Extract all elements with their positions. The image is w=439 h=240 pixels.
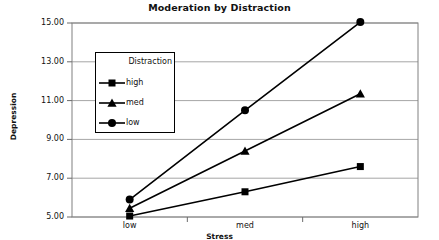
data-point-square xyxy=(126,213,133,220)
data-point-circle xyxy=(356,18,364,26)
legend-entry-label: high xyxy=(126,78,143,87)
legend-entry-high[interactable]: high xyxy=(98,73,176,91)
legend-marker-square-icon xyxy=(98,75,126,89)
data-point-square xyxy=(357,163,364,170)
data-point-triangle xyxy=(356,89,365,97)
x-axis-ticks xyxy=(187,217,302,222)
data-point-square xyxy=(242,188,249,195)
y-axis-ticks xyxy=(67,23,72,217)
data-point-circle xyxy=(126,196,134,204)
series-high xyxy=(126,163,364,219)
legend-marker-circle-icon xyxy=(98,115,126,129)
legend-entry-label: low xyxy=(126,118,140,127)
legend-title: Distraction xyxy=(96,57,172,66)
chart-figure: Moderation by Distraction Depression Str… xyxy=(0,0,439,240)
data-point-circle xyxy=(241,106,249,114)
data-point-circle xyxy=(108,119,116,127)
data-point-triangle xyxy=(240,146,249,154)
plot-area xyxy=(0,0,439,240)
legend-marker-triangle-icon xyxy=(98,95,126,109)
legend-entry-med[interactable]: med xyxy=(98,93,176,111)
data-point-triangle xyxy=(125,204,134,212)
legend-entry-low[interactable]: low xyxy=(98,113,176,131)
legend: Distraction highmedlow xyxy=(95,52,175,133)
legend-entry-label: med xyxy=(126,98,144,107)
data-point-square xyxy=(109,80,116,87)
